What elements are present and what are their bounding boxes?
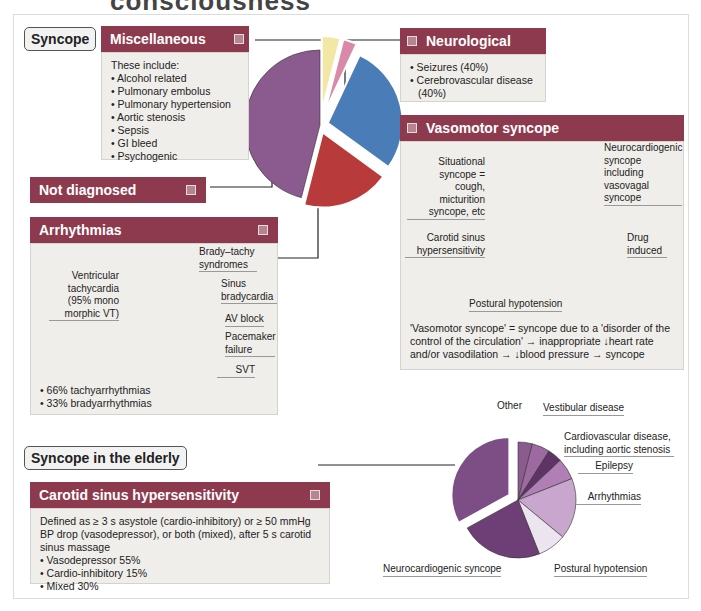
label-sinus-brady: Sinus bradycardia [221,278,277,304]
link-icon[interactable] [407,36,417,46]
label-cardiovascular: Cardiovascular disease, including aortic… [564,431,674,457]
list-item: Vasodepressor 55% [40,554,320,567]
label-epilepsy: Epilepsy [578,460,633,474]
list-item: Sepsis [111,124,239,137]
label-arrhythmias: Arrhythmias [576,491,641,505]
vasomotor-note: 'Vasomotor syncope' = syncope due to a '… [410,322,678,361]
label-av-block: AV block [225,313,264,327]
vasomotor-title: Vasomotor syncope [426,120,559,136]
arrhythmias-header: Arrhythmias [30,217,278,243]
not-diagnosed-header: Not diagnosed [30,177,206,203]
label-svt: SVT [217,364,255,378]
neuro-causes-header: Neurological causes [400,28,546,54]
misc-intro: These include: [111,59,239,72]
label-brady-tachy: Brady–tachy syndromes [199,246,257,272]
label-neurocardiogenic: Neurocardiogenic syncope including vasov… [604,142,682,206]
carotid-box: Defined as ≥ 3 s asystole (cardio-inhibi… [30,508,330,584]
label-postural-elderly: Postural hypotension [554,563,647,577]
not-diagnosed-title: Not diagnosed [39,182,136,198]
arrhythmias-box: Ventricular tachycardia (95% mono morphi… [30,243,278,415]
link-icon[interactable] [186,185,196,195]
list-item: Seizures (40%) [410,61,536,74]
misc-causes-box: These include: Alcohol related Pulmonary… [101,52,249,160]
misc-list: Alcohol related Pulmonary embolus Pulmon… [111,72,239,163]
list-item: 66% tachyarrhythmias [40,384,152,397]
neuro-causes-box: Seizures (40%) Cerebrovascular disease (… [400,54,546,102]
link-icon[interactable] [234,34,244,44]
carotid-header: Carotid sinus hypersensitivity [30,482,330,508]
label-neurocardiogenic-elderly: Neurocardiogenic syncope [383,563,501,577]
link-icon[interactable] [258,225,268,235]
arrhythmia-stats: 66% tachyarrhythmias 33% bradyarrhythmia… [40,384,152,410]
link-icon[interactable] [407,123,417,133]
list-item: Alcohol related [111,72,239,85]
list-item: Mixed 30% [40,580,320,593]
label-vt: Ventricular tachycardia (95% mono morphi… [49,270,119,321]
label-drug: Drug induced [627,232,667,258]
label-pacemaker: Pacemaker failure [225,331,275,357]
label-vestibular: Vestibular disease [543,402,624,416]
carotid-title: Carotid sinus hypersensitivity [39,487,239,503]
label-other: Other [497,400,522,413]
list-item: Psychogenic [111,150,239,163]
label-carotid: Carotid sinus hypersensitivity [405,232,485,258]
list-item: GI bleed [111,137,239,150]
carotid-definition: Defined as ≥ 3 s asystole (cardio-inhibi… [40,515,320,554]
syncope-tag: Syncope [24,27,96,51]
misc-causes-header: Miscellaneous causes [101,26,249,52]
vasomotor-header: Vasomotor syncope [400,115,684,141]
link-icon[interactable] [310,490,320,500]
list-item: Pulmonary embolus [111,85,239,98]
list-item: Cardio-inhibitory 15% [40,567,320,580]
arrhythmias-title: Arrhythmias [39,222,121,238]
list-item: Aortic stenosis [111,111,239,124]
label-situational: Situational syncope = cough, micturition… [407,156,485,220]
list-item: 33% bradyarrhythmias [40,397,152,410]
list-item: Pulmonary hypertension [111,98,239,111]
elderly-tag: Syncope in the elderly [24,446,187,470]
label-postural: Postural hypotension [469,298,562,312]
vasomotor-box: Situational syncope = cough, micturition… [400,141,684,370]
list-item: Cerebrovascular disease (40%) [410,74,536,100]
